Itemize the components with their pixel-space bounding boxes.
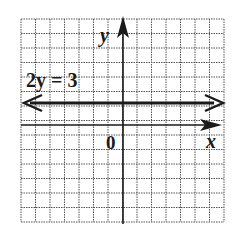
equation-label: 2y = 3: [26, 69, 77, 92]
origin-label: 0: [106, 132, 116, 153]
y-axis-label: y: [98, 24, 109, 47]
coordinate-plane: 2y = 3 y x 0: [0, 0, 233, 233]
x-axis-label: x: [205, 130, 216, 152]
